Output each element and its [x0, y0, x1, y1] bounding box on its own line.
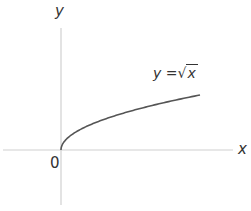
function-equals: = [166, 65, 178, 81]
function-label: y =√x [153, 66, 198, 80]
function-lhs: y [153, 65, 161, 81]
sqrt-curve [61, 95, 200, 150]
x-axis-label: x [238, 142, 247, 157]
function-radicand: x [186, 64, 197, 81]
origin-label: 0 [50, 156, 60, 171]
y-axis-label: y [55, 4, 64, 19]
graph-canvas [0, 0, 251, 211]
